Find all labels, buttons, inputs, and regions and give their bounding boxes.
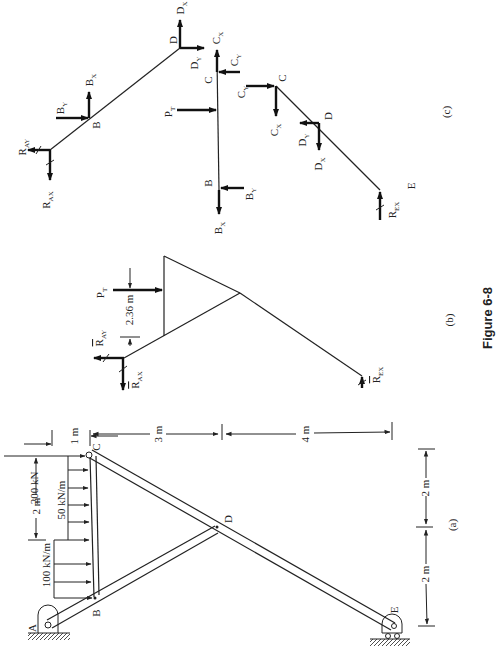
label-rax-c: RAX [40, 191, 55, 208]
pin-c [86, 452, 92, 458]
label-pt: PT [94, 287, 109, 298]
pin-b [94, 597, 97, 600]
svg-text:2 m: 2 m [419, 479, 431, 496]
svg-text:CY: CY [228, 54, 243, 66]
dim-1m: 1 m [24, 427, 118, 446]
svg-text:BX: BX [83, 74, 98, 86]
svg-text:CX: CX [210, 32, 225, 44]
svg-text:DX: DX [312, 157, 327, 170]
label-rax: RAX [129, 371, 144, 388]
svg-text:2 m: 2 m [419, 565, 431, 582]
svg-text:3 m: 3 m [152, 425, 164, 442]
joint-b-c1: B [90, 121, 102, 128]
joint-c-label: C [90, 443, 102, 450]
svg-text:1 m: 1 m [68, 427, 80, 444]
label-100knm: 100 kN/m [40, 542, 52, 587]
label-ray-c: RAY [16, 139, 31, 156]
distributed-load-100 [54, 540, 92, 598]
dim-2m-top: 2 m [28, 458, 46, 540]
joint-c-c3: C [276, 74, 288, 81]
member-a-d-fbd [124, 293, 240, 358]
svg-text:BY: BY [243, 188, 258, 200]
joint-a-label: A [26, 624, 38, 632]
dim-3m: 3 m [93, 424, 222, 442]
joint-e-c3: E [405, 182, 417, 189]
svg-text:PT: PT [162, 106, 177, 117]
svg-text:DX: DX [174, 1, 189, 14]
member-cde-fbd [276, 86, 380, 190]
label-ray: RAY [93, 330, 108, 347]
distributed-load-50 [68, 456, 89, 540]
dim-2-36m: 2.36 m [120, 268, 140, 346]
svg-text:2.36 m: 2.36 m [123, 294, 135, 325]
joint-b-label: B [90, 609, 102, 616]
joint-b-c2: B [202, 179, 214, 186]
figure-canvas: 200 kN 50 kN/m 100 kN/m A B C D E 1 m 2 … [0, 0, 496, 652]
svg-text:BX: BX [212, 222, 227, 234]
panel-c: RAY RAX BY BX B D DX DY CX CY C PT BY BX… [16, 1, 453, 234]
panel-b-label: (b) [443, 313, 456, 326]
joint-c-c2: C [202, 76, 214, 83]
svg-text:CY: CY [235, 86, 250, 98]
joint-d-label: D [222, 515, 234, 523]
panel-b: PT 2.36 m RAY RAX REX (b) [93, 256, 456, 390]
dim-bottom: 2 m 2 m [416, 449, 435, 626]
panel-a-label: (a) [446, 519, 459, 532]
svg-text:2 m: 2 m [30, 497, 42, 514]
joint-d-c3: D [322, 112, 334, 120]
member-cb [90, 456, 99, 597]
dim-4m: 4 m [226, 422, 392, 442]
member-bc-fbd [217, 60, 219, 190]
member-ce [88, 450, 395, 630]
panel-a: 200 kN 50 kN/m 100 kN/m A B C D E 1 m 2 … [4, 422, 459, 646]
member-ad [47, 526, 218, 628]
svg-text:DY: DY [296, 133, 311, 146]
joint-e-label: E [388, 606, 400, 613]
svg-text:CX: CX [268, 124, 283, 136]
pin-d [216, 526, 219, 529]
label-rex: REX [370, 367, 385, 384]
member-d-e-fbd [240, 293, 362, 376]
label-50knm: 50 kN/m [55, 480, 67, 519]
joint-d-c1: D [167, 36, 179, 44]
svg-text:4 m: 4 m [299, 425, 311, 442]
panel-c-label: (c) [440, 106, 453, 119]
member-c-d-fbd [164, 256, 240, 293]
figure-caption: Figure 6-8 [480, 287, 495, 349]
svg-text:REX: REX [386, 202, 401, 219]
member-abd-fbd [50, 48, 180, 150]
svg-text:BY: BY [54, 102, 69, 114]
svg-text:DY: DY [188, 56, 203, 69]
